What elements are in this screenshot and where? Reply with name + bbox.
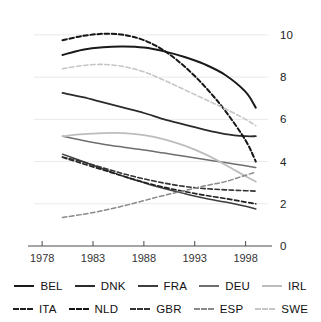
x-tick-label: 1988 (132, 252, 156, 264)
legend-entry-bel[interactable]: BEL (14, 280, 62, 292)
legend-entry-irl[interactable]: IRL (262, 280, 307, 292)
legend-label: DEU (225, 280, 250, 292)
series-lines (62, 34, 255, 218)
legend-entry-esp[interactable]: ESP (194, 303, 244, 315)
x-axis (28, 241, 272, 246)
legend-entry-dnk[interactable]: DNK (75, 280, 126, 292)
series-line-dnk (62, 93, 255, 136)
legend-entry-fra[interactable]: FRA (138, 280, 188, 292)
legend-entry-nld[interactable]: NLD (69, 303, 119, 315)
series-line-deu (62, 136, 255, 167)
x-tick-label: 1998 (233, 252, 257, 264)
legend-row-dashed: ITANLDGBRESPSWE (0, 297, 321, 320)
chart-legend: BELDNKFRADEUIRL ITANLDGBRESPSWE (0, 272, 321, 322)
legend-label: ITA (39, 303, 57, 315)
legend-label: FRA (164, 280, 188, 292)
x-tick-label: 1978 (30, 252, 54, 264)
y-tick-label: 6 (280, 113, 286, 125)
legend-swatch-nld-icon (69, 308, 89, 310)
y-tick-label: 10 (280, 29, 293, 41)
legend-swatch-dnk-icon (75, 285, 95, 287)
legend-swatch-ita-icon (13, 308, 33, 310)
legend-row-solid: BELDNKFRADEUIRL (0, 274, 321, 297)
x-tick-label: 1993 (183, 252, 207, 264)
legend-swatch-swe-icon (255, 308, 275, 310)
y-tick-label: 0 (280, 240, 286, 252)
series-line-swe (62, 64, 255, 125)
legend-label: NLD (95, 303, 119, 315)
series-line-irl (62, 133, 255, 182)
y-tick-labels: 0246810 (280, 29, 293, 252)
legend-swatch-gbr-icon (130, 308, 150, 310)
legend-entry-deu[interactable]: DEU (199, 280, 250, 292)
legend-label: IRL (288, 280, 307, 292)
chart-plot-area: 0246810 19781983198819931998 (0, 0, 321, 270)
y-tick-label: 8 (280, 71, 286, 83)
legend-label: SWE (281, 303, 308, 315)
line-chart: 0246810 19781983198819931998 BELDNKFRADE… (0, 0, 321, 322)
legend-label: ESP (220, 303, 244, 315)
legend-entry-gbr[interactable]: GBR (130, 303, 182, 315)
legend-swatch-deu-icon (199, 285, 219, 287)
x-tick-labels: 19781983198819931998 (30, 252, 258, 264)
legend-label: GBR (156, 303, 182, 315)
series-line-esp (62, 172, 255, 217)
legend-swatch-bel-icon (14, 285, 34, 287)
legend-label: DNK (101, 280, 126, 292)
legend-entry-ita[interactable]: ITA (13, 303, 57, 315)
x-tick-label: 1983 (81, 252, 105, 264)
legend-label: BEL (40, 280, 62, 292)
gridlines (34, 35, 268, 204)
y-tick-label: 2 (280, 198, 286, 210)
y-tick-label: 4 (280, 156, 287, 168)
legend-entry-swe[interactable]: SWE (255, 303, 308, 315)
legend-swatch-irl-icon (262, 285, 282, 287)
legend-swatch-fra-icon (138, 285, 158, 287)
legend-swatch-esp-icon (194, 308, 214, 310)
